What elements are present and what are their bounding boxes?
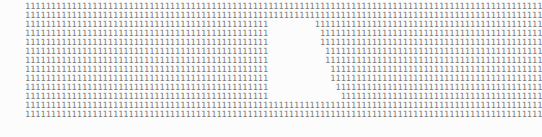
ones-text-block: 1111111111111111111111111111111111111111… — [25, 3, 427, 120]
row-segment-full: 1111111111111111111111111111111111111111… — [25, 110, 542, 120]
text-row: 1111111111111111111111111111111111111111… — [25, 111, 427, 120]
